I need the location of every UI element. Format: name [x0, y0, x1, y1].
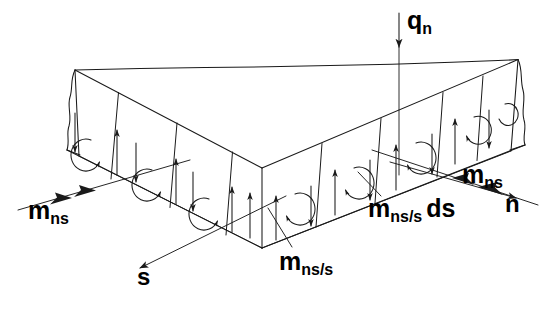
- label-m-ns-s-ds-sub: ns/s: [390, 208, 422, 225]
- slab-top-left-ridge: [75, 70, 262, 168]
- slab-top-back-edge: [75, 60, 518, 70]
- label-s-axis: s: [137, 265, 150, 289]
- force-couple-right-1: [276, 186, 315, 240]
- label-m-ns-left-base: m: [28, 196, 50, 224]
- label-n-axis: n: [505, 192, 520, 216]
- label-m-ns-left: mns: [28, 198, 69, 223]
- force-curl-right-end: [499, 103, 518, 125]
- plate-corner-diagram: qn mns mns mns/s mns/sds s n: [0, 0, 546, 310]
- label-m-ns-left-sub: ns: [50, 210, 69, 227]
- curl-arrow: [499, 103, 518, 125]
- curl-arrow: [71, 139, 100, 171]
- label-m-ns-right: mns: [462, 162, 503, 187]
- label-m-ns-s-ds-base: m: [368, 194, 390, 222]
- label-s-axis-base: s: [137, 263, 150, 290]
- diagram-canvas: [0, 0, 546, 310]
- label-m-ns-right-base: m: [462, 160, 484, 188]
- label-m-ns-s-sub: ns/s: [301, 261, 333, 278]
- force-couple-left-2: [132, 143, 176, 204]
- curl-arrow: [189, 198, 218, 230]
- label-n-axis-base: n: [505, 190, 520, 217]
- label-q-n: qn: [407, 8, 432, 33]
- label-m-ns-right-sub: ns: [484, 174, 503, 191]
- slab-top-right-ridge: [262, 60, 518, 168]
- force-couple-right-3: [396, 134, 436, 190]
- force-couple-left-3: [189, 172, 232, 232]
- label-m-ns-s: mns/s: [279, 249, 333, 274]
- force-couple-right-4: [455, 110, 491, 164]
- axis-arrow-s: [140, 196, 286, 268]
- left-face-inner-bottom-line: [79, 156, 262, 248]
- left-face-strip-dividers: [111, 93, 233, 236]
- label-m-ns-s-base: m: [279, 247, 301, 275]
- label-m-ns-s-ds-suffix: ds: [426, 194, 455, 222]
- label-q-n-base: q: [407, 6, 422, 34]
- label-m-ns-s-ds: mns/sds: [368, 196, 455, 221]
- label-q-n-sub: n: [422, 20, 432, 37]
